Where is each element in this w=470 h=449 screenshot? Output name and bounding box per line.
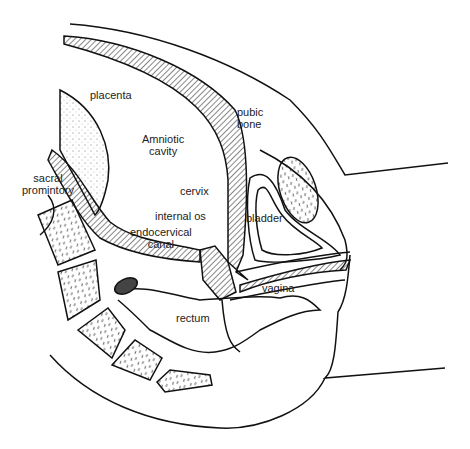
label-amniotic-line1: Amniotic (142, 133, 184, 145)
label-pubic-bone: pubic bone (237, 106, 263, 130)
label-rectum: rectum (176, 312, 210, 324)
outline-group (38, 24, 448, 428)
label-sacral-line2: promintory (22, 184, 74, 196)
label-vagina: vagina (262, 282, 294, 294)
label-amniotic: Amniotic cavity (142, 133, 184, 157)
label-placenta: placenta (90, 89, 132, 101)
label-sacral-line1: sacral (22, 172, 74, 184)
label-endo-line2: canal (130, 238, 192, 250)
label-pubic-line2: bone (237, 118, 263, 130)
label-pubic-line1: pubic (237, 106, 263, 118)
pelvis-diagram (0, 0, 470, 449)
label-amniotic-line2: cavity (142, 145, 184, 157)
label-endo-line1: endocervical (130, 226, 192, 238)
label-internal-os: internal os (155, 210, 206, 222)
label-sacral: sacral promintory (22, 172, 74, 196)
label-cervix: cervix (180, 185, 209, 197)
label-endocervical-canal: endocervical canal (130, 226, 192, 250)
label-bladder: bladder (246, 212, 283, 224)
